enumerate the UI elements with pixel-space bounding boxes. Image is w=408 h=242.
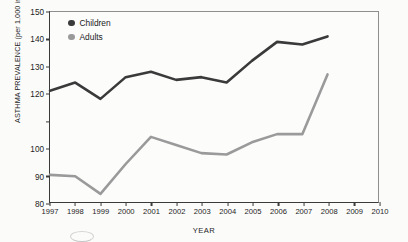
- x-axis-tick: 2005: [245, 202, 262, 216]
- x-axis-tick: 1997: [42, 202, 59, 216]
- x-axis-tick-mark: [227, 202, 228, 206]
- y-axis-tick-mark: [46, 176, 50, 177]
- x-axis-tick: 2004: [219, 202, 236, 216]
- x-axis-tick-mark: [278, 202, 279, 206]
- x-axis-tick: 2009: [346, 202, 363, 216]
- x-axis-tick-label: 2002: [168, 207, 185, 216]
- x-axis-tick-mark: [379, 202, 380, 206]
- x-axis-tick: 2002: [168, 202, 185, 216]
- x-axis-tick: 2006: [270, 202, 287, 216]
- x-axis-tick-mark: [202, 202, 203, 206]
- y-axis-tick-mark: [46, 149, 50, 150]
- y-axis-tick-mark: [46, 66, 50, 67]
- y-axis-tick-label: 130: [30, 62, 44, 71]
- x-axis-tick-label: 2010: [372, 207, 389, 216]
- x-axis-tick-mark: [303, 202, 304, 206]
- x-axis-tick-mark: [252, 202, 253, 206]
- x-axis-tick: 2003: [194, 202, 211, 216]
- x-axis-tick-mark: [151, 202, 152, 206]
- y-axis-tick: 150: [30, 8, 50, 17]
- x-axis-tick: 2008: [321, 202, 338, 216]
- y-axis-tick-label: 150: [30, 8, 44, 17]
- x-axis-tick-label: 2000: [118, 207, 135, 216]
- series-line-children: [50, 36, 328, 98]
- x-axis-tick-label: 2008: [321, 207, 338, 216]
- y-axis-tick: 100: [30, 145, 50, 154]
- series-lines: [50, 12, 378, 202]
- y-axis-tick: 140: [30, 35, 50, 44]
- x-axis-tick: 2000: [118, 202, 135, 216]
- y-axis-tick: 90: [35, 172, 50, 181]
- y-axis-tick-mark: [46, 121, 50, 122]
- y-axis-title: ASTHMA PREVALENCE (per 1,000 individuals…: [13, 0, 22, 140]
- y-axis-tick-mark: [46, 39, 50, 40]
- y-axis-tick-label: 100: [30, 145, 44, 154]
- x-axis-tick: 2010: [372, 202, 389, 216]
- y-axis-tick-label: 90: [35, 172, 44, 181]
- x-axis-tick-label: 1998: [67, 207, 84, 216]
- y-axis-tick: 130: [30, 62, 50, 71]
- x-axis-tick: 1999: [92, 202, 109, 216]
- plot-area: ChildrenAdults 1501401301201009080199719…: [49, 11, 379, 203]
- x-axis-tick-label: 2007: [295, 207, 312, 216]
- x-axis-tick: 1998: [67, 202, 84, 216]
- x-axis-tick-mark: [75, 202, 76, 206]
- x-axis-tick-mark: [126, 202, 127, 206]
- x-axis-tick-mark: [329, 202, 330, 206]
- x-axis-tick-label: 2006: [270, 207, 287, 216]
- x-axis-tick-label: 1997: [42, 207, 59, 216]
- x-axis-tick-label: 2009: [346, 207, 363, 216]
- y-axis-tick-label: 140: [30, 35, 44, 44]
- x-axis-tick-label: 1999: [92, 207, 109, 216]
- x-axis-tick-label: 2001: [143, 207, 160, 216]
- x-axis-tick-mark: [354, 202, 355, 206]
- x-axis-tick-label: 2005: [245, 207, 262, 216]
- y-axis-tick-mark: [46, 94, 50, 95]
- x-axis-title: YEAR: [0, 226, 408, 235]
- y-axis-tick: 120: [30, 90, 50, 99]
- x-axis-tick-label: 2004: [219, 207, 236, 216]
- x-axis-tick: 2001: [143, 202, 160, 216]
- y-axis-tick-mark: [46, 11, 50, 12]
- y-axis-tick-label: 120: [30, 90, 44, 99]
- x-axis-tick-mark: [100, 202, 101, 206]
- x-axis-tick: 2007: [295, 202, 312, 216]
- x-axis-tick-mark: [176, 202, 177, 206]
- page-artifact-mark: [70, 231, 94, 242]
- x-axis-tick-mark: [49, 202, 50, 206]
- y-axis-tick: [44, 121, 50, 122]
- x-axis-tick-label: 2003: [194, 207, 211, 216]
